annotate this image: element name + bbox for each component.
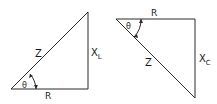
inductive-triangle: Z R θ XL [11,12,102,101]
arrowhead-icon [139,19,143,23]
angle-label: θ [22,81,27,90]
opposite-label: XL [91,47,102,61]
adjacent-label: R [45,91,51,101]
hypotenuse-label: Z [35,48,42,59]
adjacent-label: R [151,8,157,18]
capacitive-triangle: R θ Z XC [116,8,211,98]
angle-label: θ [126,22,131,31]
hypotenuse-label: Z [145,57,152,68]
triangle-outline [11,12,88,89]
impedance-diagrams: Z R θ XL R θ Z XC [0,0,217,104]
arrowhead-icon [34,85,38,89]
opposite-label: XC [199,53,211,67]
